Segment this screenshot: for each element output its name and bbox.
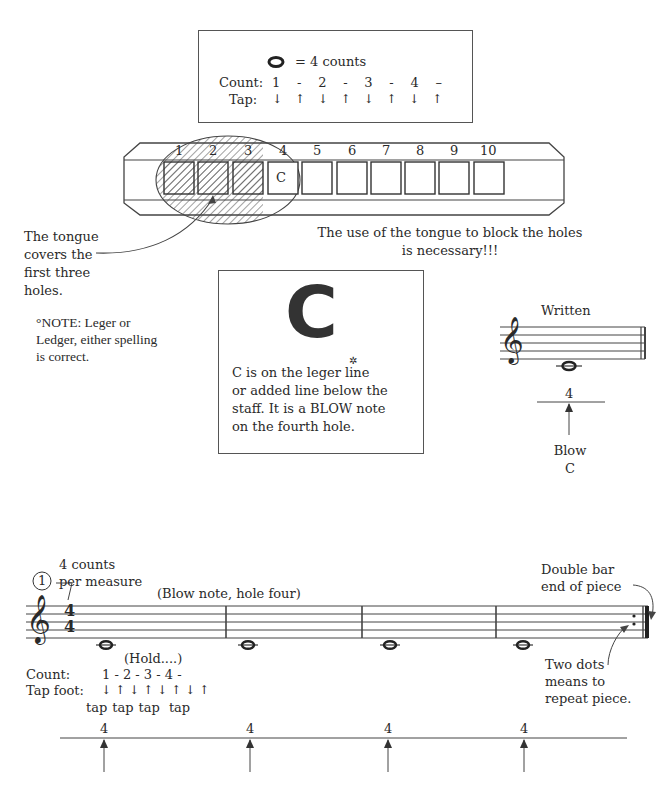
legend-counts: 1 - 2 - 3 - 4 – xyxy=(272,75,442,90)
arrow-down-icon: ↓ xyxy=(272,92,282,106)
double-bar-line: end of piece xyxy=(541,578,621,595)
arrow-up-icon: ↑ xyxy=(341,92,351,106)
arrow-down-icon: ↓ xyxy=(363,92,373,106)
treble-clef-icon: 𝄞 xyxy=(500,314,524,364)
whole-notes xyxy=(100,641,529,649)
time-sig-note-line: 4 counts xyxy=(59,556,142,573)
hole-number-8: 8 xyxy=(416,143,424,158)
block-holes-note: The use of the tongue to block the holes… xyxy=(295,224,605,260)
arrow-down-icon: ↓ xyxy=(318,92,328,106)
c-box-line: or added line below the xyxy=(232,382,388,400)
hole-number-2: 2 xyxy=(209,143,217,158)
exercise-taps: ↓ ↑ ↓ ↑ ↓ ↑ ↓ ↑ xyxy=(101,683,209,697)
double-bar-line: Double bar xyxy=(541,561,621,578)
time-sig-note: 4 counts per measure xyxy=(59,556,142,590)
hold-label: (Hold....) xyxy=(124,651,182,666)
count-dash: - xyxy=(389,75,393,90)
c-box-text: C is on the leger line or added line bel… xyxy=(232,364,388,436)
block-note-line: is necessary!!! xyxy=(295,242,605,260)
leger-note-line: °NOTE: Leger or xyxy=(36,314,157,331)
hole-number-9: 9 xyxy=(450,143,458,158)
blow-label: Blow xyxy=(550,442,590,460)
tap-word: tap xyxy=(139,700,160,715)
exercise-number: 1 xyxy=(38,573,46,588)
count-3: 3 xyxy=(364,75,372,90)
arrow-down-icon: ↓ xyxy=(185,683,195,697)
legend-taps: ↓ ↑ ↓ ↑ ↓ ↑ ↓ ↑ xyxy=(272,92,442,106)
hole-number-1: 1 xyxy=(175,143,183,158)
hole-number-5: 5 xyxy=(313,143,321,158)
tap-words: tap tap tap tap xyxy=(86,700,190,715)
tap-word: tap xyxy=(112,700,133,715)
arrow-down-icon: ↓ xyxy=(129,683,139,697)
count-4: 4 xyxy=(410,75,418,90)
hole-number-6: 6 xyxy=(348,143,356,158)
arrow-up-icon: ↑ xyxy=(171,683,181,697)
tongue-line: holes. xyxy=(24,282,99,300)
tongue-line: first three xyxy=(24,264,99,282)
count-dash: - xyxy=(297,75,301,90)
c-box-line: C is on the leger line xyxy=(232,364,388,382)
tongue-line: The tongue xyxy=(24,228,99,246)
tap-word: tap xyxy=(169,700,190,715)
count-dash: - xyxy=(343,75,347,90)
arrow-up-icon: ↑ xyxy=(386,92,396,106)
big-c-letter: C xyxy=(285,272,338,352)
hole-4-note-label: C xyxy=(276,170,286,185)
leger-note-line: Ledger, either spelling xyxy=(36,331,157,348)
count-2: 2 xyxy=(318,75,326,90)
hole-number-10: 10 xyxy=(480,143,497,158)
tap-foot-label: Tap foot: xyxy=(26,683,84,698)
time-signature: 4 4 xyxy=(64,603,75,635)
c-box-line: staff. It is a BLOW note xyxy=(232,400,388,418)
leger-spelling-note: °NOTE: Leger or Ledger, either spelling … xyxy=(36,314,157,365)
double-bar-note: Double bar end of piece xyxy=(541,561,621,595)
blow-c-label: Blow C xyxy=(550,442,590,478)
exercise-count-label: Count: xyxy=(26,667,70,682)
tap-word: tap xyxy=(86,700,107,715)
arrow-up-icon: ↑ xyxy=(432,92,442,106)
arrow-up-icon xyxy=(565,403,573,412)
arrow-down-icon: ↓ xyxy=(157,683,167,697)
arrow-up-icon: ↑ xyxy=(143,683,153,697)
time-sig-bottom: 4 xyxy=(64,619,75,635)
tongue-line: covers the xyxy=(24,246,99,264)
hole-marker-4: 4 xyxy=(520,721,528,736)
arrow-up-icon: ↑ xyxy=(115,683,125,697)
c-label: C xyxy=(550,460,590,478)
leger-note-line: is correct. xyxy=(36,348,157,365)
arrow-up-icon: ↑ xyxy=(199,683,209,697)
blow-note-label: (Blow note, hole four) xyxy=(157,586,301,601)
c-box-line: on the fourth hole. xyxy=(232,418,388,436)
repeat-note: Two dots means to repeat piece. xyxy=(545,656,631,707)
tongue-note: The tongue covers the first three holes. xyxy=(24,228,99,300)
whole-note-icon xyxy=(269,58,283,67)
exercise-counts: 1 - 2 - 3 - 4 - xyxy=(102,667,182,682)
arrow-down-icon: ↓ xyxy=(101,683,111,697)
arrow-down-icon: ↓ xyxy=(409,92,419,106)
written-title: Written xyxy=(541,303,591,318)
block-note-line: The use of the tongue to block the holes xyxy=(295,224,605,242)
legend-equals: = 4 counts xyxy=(295,54,366,69)
arrow-up-icon: ↑ xyxy=(295,92,305,106)
hole-number-4: 4 xyxy=(279,143,287,158)
repeat-line: repeat piece. xyxy=(545,690,631,707)
repeat-line: means to xyxy=(545,673,631,690)
hole-number-3: 3 xyxy=(244,143,252,158)
legend-tap-label: Tap: xyxy=(229,92,257,107)
hole-marker-3: 4 xyxy=(384,721,392,736)
hole-marker-1: 4 xyxy=(100,721,108,736)
written-hole-number: 4 xyxy=(565,386,573,401)
repeat-line: Two dots xyxy=(545,656,631,673)
legend-count-label: Count: xyxy=(219,75,263,90)
time-sig-note-line: per measure xyxy=(59,573,142,590)
hole-number-7: 7 xyxy=(382,143,390,158)
count-dash: – xyxy=(435,75,442,90)
treble-clef-icon: 𝄞 xyxy=(26,593,51,645)
count-1: 1 xyxy=(272,75,280,90)
hole-marker-2: 4 xyxy=(246,721,254,736)
